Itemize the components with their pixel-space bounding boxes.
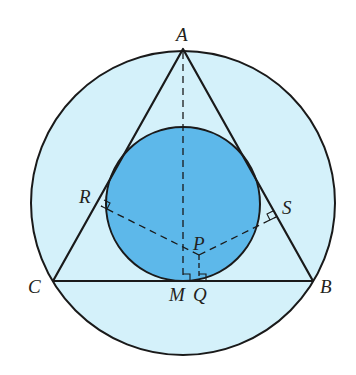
label-b: B <box>320 276 332 297</box>
label-c: C <box>28 276 41 297</box>
geometry-diagram: A B C M Q P R S <box>0 0 356 375</box>
label-s: S <box>282 197 292 218</box>
label-r: R <box>78 186 91 207</box>
label-p: P <box>192 233 205 254</box>
label-a: A <box>174 24 188 45</box>
label-m: M <box>168 284 186 305</box>
label-q: Q <box>193 284 207 305</box>
